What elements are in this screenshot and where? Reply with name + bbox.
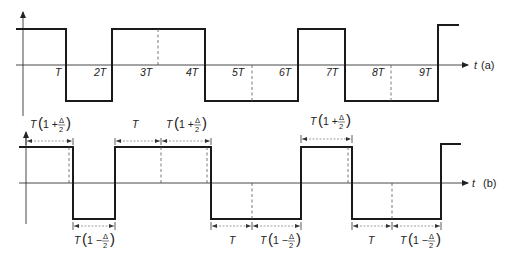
svg-text:Δ: Δ [195, 116, 200, 125]
panel-label-a: (a) [481, 59, 494, 71]
svg-text:Δ: Δ [429, 232, 434, 241]
panel-label-b: (b) [483, 177, 496, 189]
tick-label-7T: 7T [326, 66, 340, 78]
top-label-4: T ( 1 + Δ 2 ) [310, 111, 351, 131]
axis-var-t-b: t [472, 177, 476, 189]
svg-text:1 +: 1 + [323, 115, 338, 127]
svg-text:): ) [66, 114, 71, 131]
svg-text:2: 2 [103, 241, 107, 250]
svg-text:1 −: 1 − [413, 234, 428, 246]
bottom-dimension-3 [253, 222, 301, 230]
tick-label-9T: 9T [419, 66, 433, 78]
top-label-3: T ( 1 + Δ 2 ) [166, 114, 207, 134]
svg-text:1 −: 1 − [273, 234, 288, 246]
svg-text:Δ: Δ [289, 232, 294, 241]
svg-text:2: 2 [59, 125, 63, 134]
panel-a: T 2T 3T 4T 5T 6T 7T 8T 9T t (a) [16, 12, 494, 116]
square-wave-b [19, 144, 461, 219]
svg-text:Δ: Δ [103, 232, 108, 241]
tick-label-T: T [55, 66, 63, 78]
svg-text:T: T [400, 234, 408, 246]
svg-text:Δ: Δ [59, 116, 64, 125]
bottom-dimension-2 [211, 222, 252, 230]
svg-text:T: T [74, 234, 82, 246]
top-label-1: T ( 1 + Δ 2 ) [30, 114, 71, 134]
svg-text:2: 2 [429, 241, 433, 250]
tick-label-4T: 4T [186, 66, 200, 78]
svg-text:Δ: Δ [339, 113, 344, 122]
bottom-label-4: T [368, 234, 376, 246]
bottom-dimension-4 [352, 222, 392, 230]
svg-text:1 −: 1 − [87, 234, 102, 246]
svg-text:T: T [310, 115, 318, 127]
svg-text:2: 2 [339, 122, 343, 131]
svg-text:T: T [166, 118, 174, 130]
svg-text:1 +: 1 + [179, 118, 194, 130]
svg-text:): ) [110, 230, 115, 247]
svg-text:2: 2 [289, 241, 293, 250]
svg-text:1 +: 1 + [43, 118, 58, 130]
svg-text:T: T [260, 234, 268, 246]
svg-text:T: T [30, 118, 38, 130]
top-dimension-4 [301, 135, 352, 143]
tick-label-3T: 3T [140, 66, 154, 78]
tick-label-5T: 5T [232, 66, 246, 78]
tick-label-8T: 8T [372, 66, 386, 78]
tick-label-6T: 6T [279, 66, 293, 78]
top-dimension-2 [115, 138, 161, 145]
square-wave-a [16, 25, 459, 101]
svg-text:): ) [202, 114, 207, 131]
panel-b: T ( 1 + Δ 2 ) T T ( 1 + Δ 2 ) T ( 1 + Δ … [19, 111, 496, 250]
top-dimension-1 [26, 138, 73, 145]
bottom-dimension-5 [393, 222, 441, 230]
svg-text:): ) [346, 111, 351, 128]
bottom-dimension-1 [73, 222, 115, 230]
bottom-label-3: T ( 1 − Δ 2 ) [260, 230, 301, 250]
waveform-diagram: T 2T 3T 4T 5T 6T 7T 8T 9T t (a) [0, 0, 512, 263]
svg-text:2: 2 [195, 125, 199, 134]
top-label-2: T [132, 118, 140, 130]
axis-var-t-a: t [474, 59, 478, 71]
bottom-label-5: T ( 1 − Δ 2 ) [400, 230, 441, 250]
tick-label-2T: 2T [93, 66, 108, 78]
top-dimension-3 [162, 138, 211, 145]
svg-text:): ) [436, 230, 441, 247]
bottom-label-1: T ( 1 − Δ 2 ) [74, 230, 115, 250]
bottom-label-2: T [229, 234, 237, 246]
svg-text:): ) [296, 230, 301, 247]
